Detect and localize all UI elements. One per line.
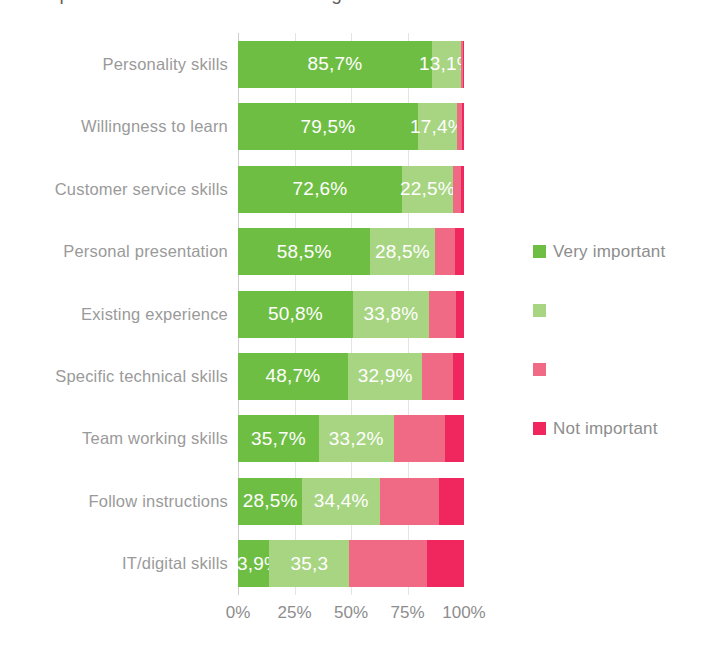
legend-label: Not important — [553, 419, 658, 439]
bar-segment[interactable] — [319, 415, 394, 462]
bar-segment[interactable] — [302, 478, 380, 525]
category-label: Existing experience — [18, 303, 228, 326]
bar-segment[interactable] — [238, 540, 269, 587]
bar-segment[interactable] — [238, 353, 348, 400]
bar-row[interactable]: 35,7%33,2% — [238, 415, 464, 462]
x-tick-label: 100% — [442, 603, 485, 623]
category-axis-labels: Personality skillsWillingness to learnCu… — [18, 33, 228, 595]
bar-segment[interactable] — [462, 103, 464, 150]
category-label: Team working skills — [18, 427, 228, 450]
chart-legend: Very importantNot important — [533, 222, 723, 458]
bar-segment[interactable] — [380, 478, 439, 525]
legend-item[interactable] — [533, 281, 723, 340]
x-axis-tick-labels: 0%25%50%75%100% — [238, 603, 464, 627]
legend-item[interactable] — [533, 340, 723, 399]
x-tick-label: 75% — [390, 603, 424, 623]
bar-segment[interactable] — [349, 540, 427, 587]
bar-segment[interactable] — [238, 415, 319, 462]
bar-segment[interactable] — [370, 228, 434, 275]
legend-item[interactable]: Not important — [533, 399, 723, 458]
bar-segment[interactable] — [402, 166, 453, 213]
bar-segment[interactable] — [348, 353, 422, 400]
category-label: Follow instructions — [18, 490, 228, 513]
bar-row[interactable]: 48,7%32,9% — [238, 353, 464, 400]
bar-segment[interactable] — [269, 540, 349, 587]
bar-row[interactable]: 13,9%35,3 — [238, 540, 464, 587]
bar-segment[interactable] — [238, 291, 353, 338]
bar-segment[interactable] — [238, 41, 432, 88]
bar-segment[interactable] — [418, 103, 457, 150]
bar-segment[interactable] — [453, 166, 461, 213]
chart-title: Importance of skills when recruiting sta… — [38, 0, 518, 5]
category-label: IT/digital skills — [18, 552, 228, 575]
bar-segment[interactable] — [394, 415, 445, 462]
legend-swatch-icon — [533, 422, 546, 435]
bar-row[interactable]: 58,5%28,5% — [238, 228, 464, 275]
bar-segment[interactable] — [456, 291, 464, 338]
category-label: Customer service skills — [18, 178, 228, 201]
legend-item[interactable]: Very important — [533, 222, 723, 281]
bar-segment[interactable] — [455, 228, 464, 275]
bar-segment[interactable] — [238, 478, 302, 525]
bar-segment[interactable] — [353, 291, 429, 338]
bar-segment[interactable] — [432, 41, 462, 88]
plot-area: 85,7%13,1%79,5%17,4%72,6%22,5%58,5%28,5%… — [238, 33, 464, 595]
bar-segment[interactable] — [238, 166, 402, 213]
legend-swatch-icon — [533, 304, 546, 317]
bar-segment[interactable] — [463, 41, 464, 88]
bar-segment[interactable] — [429, 291, 456, 338]
bar-segment[interactable] — [427, 540, 464, 587]
bar-row[interactable]: 28,5%34,4% — [238, 478, 464, 525]
category-label: Willingness to learn — [18, 115, 228, 138]
category-label: Personal presentation — [18, 240, 228, 263]
bar-segment[interactable] — [461, 166, 464, 213]
stacked-bar-chart: Importance of skills when recruiting sta… — [0, 0, 724, 667]
bar-row[interactable]: 79,5%17,4% — [238, 103, 464, 150]
bar-segment[interactable] — [422, 353, 453, 400]
bar-row[interactable]: 50,8%33,8% — [238, 291, 464, 338]
category-label: Specific technical skills — [18, 365, 228, 388]
x-tick-label: 25% — [277, 603, 311, 623]
bar-segment[interactable] — [453, 353, 464, 400]
legend-swatch-icon — [533, 245, 546, 258]
category-label: Personality skills — [18, 53, 228, 76]
bar-segment[interactable] — [445, 415, 464, 462]
x-tick-label: 0% — [226, 603, 251, 623]
bar-row[interactable]: 85,7%13,1% — [238, 41, 464, 88]
bar-segment[interactable] — [238, 103, 418, 150]
x-tick-label: 50% — [334, 603, 368, 623]
bar-segment[interactable] — [435, 228, 456, 275]
legend-label: Very important — [553, 242, 665, 262]
bar-row[interactable]: 72,6%22,5% — [238, 166, 464, 213]
legend-swatch-icon — [533, 363, 546, 376]
bar-segment[interactable] — [439, 478, 464, 525]
bar-segment[interactable] — [238, 228, 370, 275]
